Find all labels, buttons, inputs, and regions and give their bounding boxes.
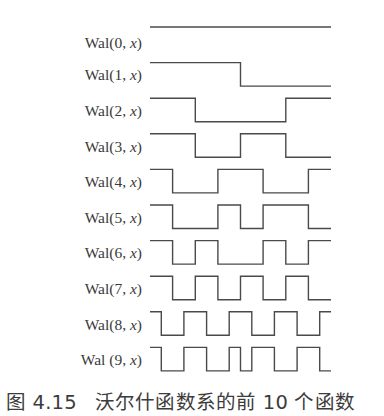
figure-caption: 图 4.15沃尔什函数系的前 10 个函数 (6, 386, 384, 415)
walsh-waveform-3 (150, 134, 331, 158)
waveform-plot (0, 0, 384, 380)
walsh-function-figure: Wal(0, x)Wal(1, x)Wal(2, x)Wal(3, x)Wal(… (0, 0, 384, 416)
walsh-waveform-5 (150, 205, 331, 229)
walsh-waveform-7 (150, 276, 331, 300)
walsh-waveform-4 (150, 169, 331, 193)
caption-text: 沃尔什函数系的前 10 个函数 (95, 391, 355, 414)
walsh-waveform-1 (150, 63, 331, 87)
figure-number: 图 4.15 (6, 391, 77, 414)
walsh-waveform-2 (150, 98, 331, 122)
walsh-waveform-9 (150, 347, 331, 371)
walsh-waveform-6 (150, 241, 331, 265)
walsh-waveform-8 (150, 312, 331, 336)
